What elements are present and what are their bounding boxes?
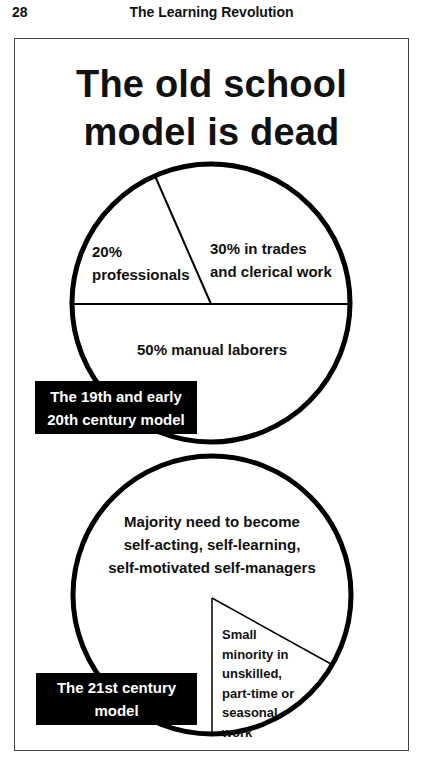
slice-label-line: self-motivated self-managers xyxy=(90,556,334,579)
slice-label-line: minority in xyxy=(222,645,294,665)
slice-label-line: self-acting, self-learning, xyxy=(90,533,334,556)
slice-label-line: unskilled, xyxy=(222,664,294,684)
caption-line: 20th century model xyxy=(35,408,197,431)
caption-line: The 21st century xyxy=(36,676,197,699)
pie-2-slice-majority-label: Majority need to become self-acting, sel… xyxy=(90,510,334,579)
slice-label-line: professionals xyxy=(92,263,190,286)
pie-1-slice-professionals-label: 20% professionals xyxy=(92,240,190,286)
pie-2-slice-minority-label: Small minority in unskilled, part-time o… xyxy=(222,625,294,742)
slice-label-line: work xyxy=(222,723,294,743)
slice-label-line: and clerical work xyxy=(210,260,332,283)
slice-label-line: 50% manual laborers xyxy=(100,338,324,361)
slice-label-line: 30% in trades xyxy=(210,237,332,260)
caption-line: model xyxy=(36,699,197,722)
slice-label-line: seasonal xyxy=(222,703,294,723)
slice-label-line: 20% xyxy=(92,240,190,263)
slice-label-line: Majority need to become xyxy=(90,510,334,533)
pie-1-slice-manual-label: 50% manual laborers xyxy=(100,338,324,361)
slice-label-line: Small xyxy=(222,625,294,645)
pie-2-caption: The 21st century model xyxy=(36,673,197,725)
pie-1-caption: The 19th and early 20th century model xyxy=(35,381,197,434)
slice-label-line: part-time or xyxy=(222,684,294,704)
pie-1-slice-trades-label: 30% in trades and clerical work xyxy=(210,237,332,283)
caption-line: The 19th and early xyxy=(35,385,197,408)
